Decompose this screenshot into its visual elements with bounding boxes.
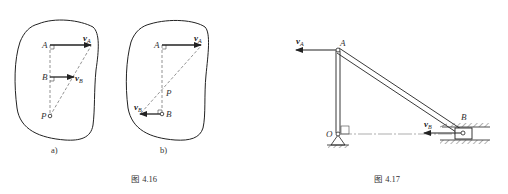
label-vA: vA bbox=[194, 33, 202, 44]
label-A: A bbox=[41, 40, 48, 50]
caption-fig-4-17: 图 4.17 bbox=[374, 174, 400, 184]
figure-4-16b: A B P vA vB b) bbox=[126, 20, 208, 155]
caption-fig-4-16: 图 4.16 bbox=[131, 174, 157, 184]
sublabel-a: a) bbox=[51, 145, 58, 155]
dashed-line-vB-tip-vA-tip bbox=[141, 46, 201, 113]
label-B: B bbox=[461, 112, 467, 122]
label-vA: vA bbox=[296, 36, 304, 47]
right-angle-mark-O bbox=[341, 126, 349, 134]
label-P: P bbox=[40, 111, 47, 121]
label-P: P bbox=[165, 88, 172, 98]
diagram-canvas: A B P vA vB a) A B P vA vB b) 图 4.16 bbox=[0, 0, 508, 194]
label-O: O bbox=[326, 129, 333, 139]
label-vB: vB bbox=[134, 102, 142, 113]
point-B bbox=[160, 112, 164, 116]
slider-guide-lower bbox=[440, 140, 490, 144]
instant-center-P bbox=[48, 114, 52, 118]
dashed-line-P-vA-tip bbox=[50, 46, 91, 116]
label-B: B bbox=[166, 109, 172, 119]
figure-4-16a: A B P vA vB a) bbox=[15, 20, 98, 155]
bar-AB bbox=[337, 48, 464, 136]
joint-A bbox=[336, 48, 340, 52]
figure-4-17: A B O vA vB bbox=[296, 36, 490, 148]
label-vB: vB bbox=[75, 73, 83, 84]
joint-B bbox=[461, 131, 465, 135]
label-vA: vA bbox=[83, 33, 91, 44]
slider-guide-upper bbox=[442, 123, 490, 127]
joint-O bbox=[336, 132, 340, 136]
label-B: B bbox=[42, 72, 48, 82]
label-vB: vB bbox=[424, 119, 432, 130]
label-A: A bbox=[339, 38, 346, 48]
bar-OA bbox=[336, 51, 340, 133]
sublabel-b: b) bbox=[160, 145, 167, 155]
label-A: A bbox=[153, 40, 160, 50]
